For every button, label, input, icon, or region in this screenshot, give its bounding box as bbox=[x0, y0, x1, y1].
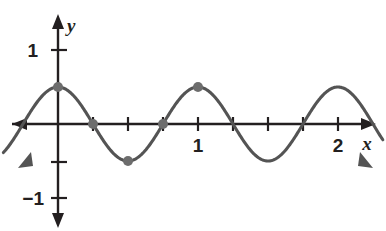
x-tick-label-2: 2 bbox=[333, 135, 344, 156]
point-max-y-intercept bbox=[53, 82, 63, 92]
point-x-intercept-0p75 bbox=[158, 119, 168, 129]
point-x-intercept-0p25 bbox=[88, 119, 98, 129]
graph-figure: 1 −1 1 2 y x bbox=[0, 0, 386, 231]
point-maximum-1 bbox=[193, 82, 203, 92]
point-minimum-0p5 bbox=[123, 156, 133, 166]
y-axis-group bbox=[52, 14, 64, 228]
y-axis-down-arrowhead bbox=[52, 213, 64, 228]
coordinate-plane: 1 −1 1 2 y x bbox=[0, 0, 386, 231]
curve-right-arrowhead bbox=[358, 152, 373, 168]
y-axis-label: y bbox=[65, 15, 76, 36]
curve-left-arrowhead bbox=[18, 152, 33, 168]
y-tick-label-1: 1 bbox=[27, 40, 38, 61]
y-axis-up-arrowhead bbox=[52, 14, 64, 29]
x-tick-label-1: 1 bbox=[193, 135, 204, 156]
y-tick-label-neg1: −1 bbox=[22, 188, 44, 209]
x-axis-label: x bbox=[361, 133, 372, 154]
x-axis-group bbox=[12, 118, 376, 130]
